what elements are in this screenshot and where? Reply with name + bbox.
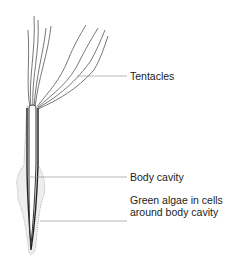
hydra-illustration xyxy=(0,0,234,264)
label-tentacles: Tentacles xyxy=(130,70,174,82)
body-drawing xyxy=(17,105,45,254)
tentacles-drawing xyxy=(28,16,108,109)
label-body-cavity: Body cavity xyxy=(130,171,184,183)
label-green-algae: Green algae in cells around body cavity xyxy=(130,194,230,218)
